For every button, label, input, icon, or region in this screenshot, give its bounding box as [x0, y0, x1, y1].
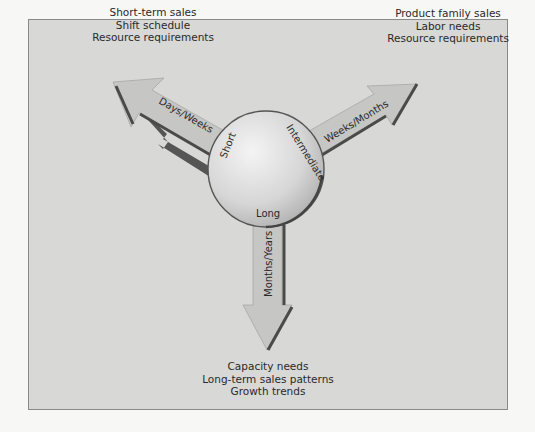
intermediate-horizon-uses: Product family sales Labor needs Resourc… [378, 7, 518, 45]
long-duration-label: Months/Years [263, 231, 274, 297]
use-item: Labor needs [378, 20, 518, 33]
long-horizon-uses: Capacity needs Long-term sales patterns … [168, 360, 368, 398]
use-item: Product family sales [378, 7, 518, 20]
use-item: Resource requirements [78, 31, 228, 44]
use-item: Growth trends [168, 385, 368, 398]
use-item: Long-term sales patterns [168, 373, 368, 386]
use-item: Short-term sales [78, 6, 228, 19]
short-horizon-uses: Short-term sales Shift schedule Resource… [78, 6, 228, 44]
use-item: Resource requirements [378, 32, 518, 45]
use-item: Shift schedule [78, 19, 228, 32]
use-item: Capacity needs [168, 360, 368, 373]
circle-long-label: Long [256, 208, 280, 219]
